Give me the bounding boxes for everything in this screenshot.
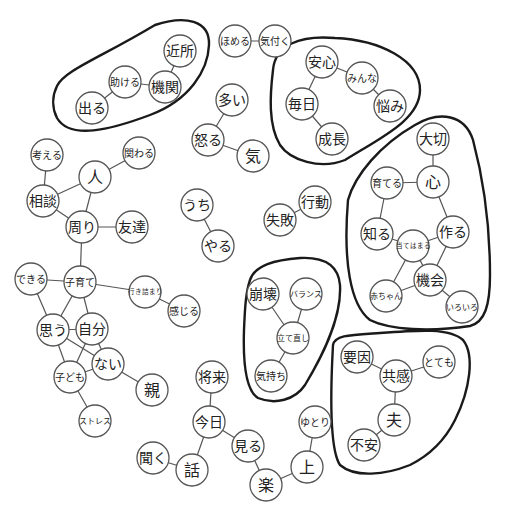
node-raku: 楽 [250,469,282,501]
node-kosodate: 子育て [64,266,96,298]
node-nai: ない [92,348,124,380]
node-okoru: 怒る [192,124,224,156]
node-jibun: 自分 [76,313,108,345]
node-kodo: 行動 [299,186,331,218]
node-label: 友達 [118,219,146,235]
node-seicho: 成長 [316,123,348,155]
node-label: 人 [87,168,103,187]
node-label: 成長 [318,131,346,147]
node-kizuku: 気付く [259,25,291,57]
node-label: 悩み [376,98,404,114]
node-label: 相談 [29,193,57,209]
node-omou: 思う [37,314,69,346]
node-label: 話 [184,461,200,480]
node-label: 周り [68,219,96,235]
node-kiku: 聞く [137,442,169,474]
node-dekiru: できる [15,263,47,295]
node-kanjiru: 感じる [168,295,200,327]
node-label: 怒る [194,132,222,148]
node-kyokan: 共感 [380,360,412,392]
node-totemo: とても [423,346,455,378]
node-label: 今日 [195,414,223,430]
node-anshin: 安心 [306,46,338,78]
node-label: いろいろ [446,303,478,312]
node-tatenaoshi: 立て直し [277,322,309,354]
node-label: 聞く [139,450,167,466]
node-tomodachi: 友達 [116,211,148,243]
node-label: 助ける [110,76,140,88]
node-sodateru: 育てる [371,167,403,199]
node-label: 夫 [386,411,402,430]
node-label: ない [94,356,122,372]
node-ki: 気 [237,140,269,172]
node-kodomo: 子ども [54,361,86,393]
node-shorai: 将来 [196,361,228,393]
node-label: 感じる [169,305,199,317]
node-fuan: 不安 [348,429,380,461]
node-iroiro: いろいろ [446,291,478,323]
node-label: 行き詰まり [128,287,163,296]
node-label: 不安 [350,437,378,453]
node-label: 心 [425,173,441,192]
node-tasukeru: 助ける [109,66,141,98]
node-label: やる [204,238,232,254]
node-label: とても [424,357,454,368]
node-balance: バランス [290,278,322,310]
node-label: 出る [78,100,106,116]
node-oya: 親 [136,374,168,406]
node-kakawaru: 関わる [123,137,155,169]
node-label: ストレス [79,417,111,426]
node-kikan: 機関 [149,71,181,103]
node-akachan: 赤ちゃん [370,280,402,312]
node-label: バランス [290,290,322,299]
network-nodes: 近所機関助ける出るほめる気付く多い怒る気安心みんな悩み毎日成長考える関わる人相談… [15,25,478,501]
node-label: 失敗 [266,212,294,228]
node-kokoro: 心 [417,166,449,198]
node-minna: みんな [346,62,378,94]
node-label: 近所 [166,43,194,59]
node-label: 考える [32,150,62,161]
node-ikizumari: 行き詰まり [128,276,163,308]
node-label: 毎日 [288,96,316,112]
node-shippai: 失敗 [264,204,296,236]
node-label: 安心 [308,54,336,70]
node-label: 楽 [258,476,274,495]
node-label: 多い [218,92,246,108]
node-label: うち [183,197,211,213]
node-mainichi: 毎日 [286,88,318,120]
node-label: 崩壊 [249,286,277,302]
node-label: みんな [347,73,377,84]
node-label: 関わる [124,148,154,159]
node-shiru: 知る [361,218,393,250]
node-yoin: 要因 [341,341,373,373]
node-sodan: 相談 [27,185,59,217]
co-occurrence-network: 近所機関助ける出るほめる気付く多い怒る気安心みんな悩み毎日成長考える関わる人相談… [0,0,505,512]
node-label: 行動 [301,194,329,210]
node-label: 将来 [198,369,226,385]
node-label: 大切 [419,131,447,147]
node-label: 気 [245,147,261,166]
node-label: ほめる [220,36,250,47]
node-oi: 多い [216,84,248,116]
node-kimochi: 気持ち [255,360,287,392]
node-label: 親 [144,381,160,400]
node-yutori: ゆとり [299,406,331,438]
node-deru: 出る [76,92,108,124]
node-label: 当てはまる [396,241,431,250]
node-kikai: 機会 [414,264,446,296]
node-label: 育てる [372,177,402,189]
node-kyo: 今日 [193,406,225,438]
node-label: 気持ち [256,370,286,382]
node-label: 見る [234,438,262,454]
node-kinjo: 近所 [164,35,196,67]
node-label: ゆとり [300,417,330,428]
node-ue: 上 [291,451,323,483]
node-tsukuru: 作る [437,216,469,248]
node-label: 知る [363,226,391,242]
node-label: 作る [439,224,467,240]
node-otto: 夫 [378,404,410,436]
node-yaru: やる [202,230,234,262]
node-hokai: 崩壊 [247,278,279,310]
node-label: 思う [39,322,67,338]
node-label: 共感 [382,368,410,384]
